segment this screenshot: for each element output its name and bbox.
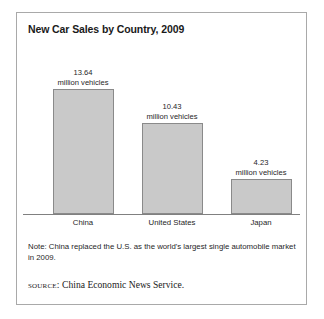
figure-source: Source: China Economic News Service. — [28, 279, 296, 291]
source-text: China Economic News Service. — [62, 279, 184, 290]
plot-area: 13.64 million vehicles 10.43 million veh… — [17, 43, 306, 215]
bar-value-unit-2: million vehicles — [235, 168, 286, 177]
bar-value-label-1: 10.43 million vehicles — [146, 102, 197, 121]
bar-value-label-2: 4.23 million vehicles — [235, 158, 286, 177]
bar-group-united-states: 10.43 million vehicles — [141, 43, 203, 214]
bar-group-japan: 4.23 million vehicles — [230, 43, 292, 214]
page-title: New Car Sales by Country, 2009 — [28, 23, 184, 35]
bar-value-number-0: 13.64 — [57, 68, 108, 77]
x-tick-label-japan: Japan — [225, 218, 297, 227]
bar-value-label-0: 13.64 million vehicles — [57, 68, 108, 87]
figure-frame: New Car Sales by Country, 2009 13.64 mil… — [16, 12, 307, 305]
source-label: Source: — [28, 279, 60, 290]
bar-china — [53, 89, 114, 214]
bar-group-china: 13.64 million vehicles — [52, 43, 114, 214]
bar-value-unit-1: million vehicles — [146, 112, 197, 121]
x-tick-label-united-states: United States — [136, 218, 208, 227]
bar-value-number-1: 10.43 — [146, 102, 197, 111]
x-axis-tick-labels: China United States Japan — [17, 218, 306, 232]
x-tick-label-china: China — [47, 218, 119, 227]
x-axis-line — [23, 214, 300, 215]
figure-note: Note: China replaced the U.S. as the wor… — [28, 241, 296, 263]
bar-united-states — [142, 123, 203, 214]
bar-japan — [231, 179, 292, 214]
bar-value-unit-0: million vehicles — [57, 78, 108, 87]
bar-value-number-2: 4.23 — [235, 158, 286, 167]
